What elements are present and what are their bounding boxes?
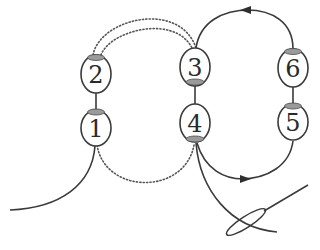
- solid-arc-6-3-right: [247, 10, 293, 49]
- node-1: 1: [81, 109, 111, 146]
- solid-arc-4-5-left: [197, 143, 243, 179]
- node-3: 3: [180, 48, 210, 86]
- node-label: 3: [187, 54, 202, 82]
- node-label: 2: [88, 61, 103, 89]
- stitch-diagram: 2 1 3 4 6 5: [0, 0, 320, 250]
- solid-arc-4-5-right: [240, 141, 293, 179]
- arrow-right-icon: [240, 175, 251, 183]
- node-label: 4: [187, 110, 202, 138]
- node-2: 2: [81, 55, 111, 94]
- node-label: 1: [88, 115, 103, 143]
- dotted-arc-2-3-outer: [93, 19, 196, 55]
- needle-thread: [196, 143, 277, 232]
- tail-thread: [10, 146, 95, 210]
- node-5: 5: [278, 103, 308, 140]
- cap-top: [88, 55, 105, 61]
- dotted-arc-1-4: [97, 145, 194, 183]
- needle-eye: [224, 205, 269, 239]
- needle-shaft: [264, 185, 308, 211]
- solid-arc-6-3-left: [196, 10, 250, 48]
- arrow-left-icon: [240, 6, 251, 14]
- node-6: 6: [278, 49, 308, 88]
- cap-top: [285, 49, 302, 55]
- node-label: 5: [285, 109, 300, 137]
- node-label: 6: [285, 55, 300, 83]
- dotted-arc-2-3-inner: [101, 29, 192, 55]
- node-4: 4: [180, 104, 210, 142]
